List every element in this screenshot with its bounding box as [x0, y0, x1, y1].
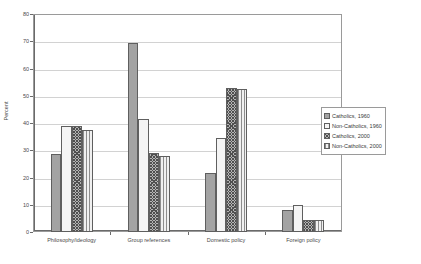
y-axis-tick-label: 0 — [26, 229, 29, 235]
y-axis-tick-label: 80 — [23, 11, 29, 17]
x-axis-tick-mark — [110, 232, 111, 235]
legend: Catholics, 1960Non-Catholics, 1960Cathol… — [321, 107, 386, 155]
bar-chart: Percent 01020304050607080 Philosophy/ide… — [0, 0, 421, 264]
bar-group — [33, 14, 342, 232]
y-axis-tick-label: 30 — [23, 147, 29, 153]
bars-layer — [33, 14, 342, 232]
y-axis-tick-label: 40 — [23, 120, 29, 126]
y-axis-tick-label: 50 — [23, 93, 29, 99]
legend-item: Non-Catholics, 1960 — [324, 121, 382, 131]
y-axis-tick-label: 10 — [23, 202, 29, 208]
bar — [314, 220, 325, 232]
legend-item: Non-Catholics, 2000 — [324, 141, 382, 151]
x-axis-tick-label: Group references — [110, 236, 187, 244]
bar — [303, 220, 314, 232]
bar — [282, 210, 293, 232]
legend-swatch-icon — [324, 123, 330, 129]
x-axis-labels: Philosophy/ideologyGroup referencesDomes… — [33, 236, 342, 250]
legend-label: Non-Catholics, 1960 — [332, 123, 382, 130]
x-axis-tick-mark — [265, 232, 266, 235]
legend-item: Catholics, 1960 — [324, 111, 382, 121]
legend-swatch-icon — [324, 133, 330, 139]
x-axis-tick-label: Foreign policy — [265, 236, 342, 244]
y-axis-tick-label: 60 — [23, 66, 29, 72]
bar — [293, 205, 304, 232]
legend-item: Catholics, 2000 — [324, 131, 382, 141]
legend-swatch-icon — [324, 143, 330, 149]
legend-swatch-icon — [324, 113, 330, 119]
x-axis-tick-label: Domestic policy — [188, 236, 265, 244]
y-axis-tick-label: 20 — [23, 175, 29, 181]
x-axis-tick-mark — [188, 232, 189, 235]
x-axis-tick-label: Philosophy/ideology — [33, 236, 110, 244]
y-axis-tick-mark — [30, 232, 33, 233]
legend-label: Catholics, 2000 — [332, 133, 370, 140]
legend-label: Non-Catholics, 2000 — [332, 143, 382, 150]
legend-label: Catholics, 1960 — [332, 113, 370, 120]
y-axis-tick-label: 70 — [23, 38, 29, 44]
y-axis: 01020304050607080 — [0, 14, 33, 232]
